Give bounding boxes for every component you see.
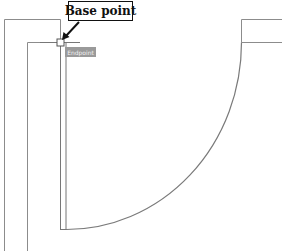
- door-panel[interactable]: [61, 43, 67, 230]
- callout-arrow: [62, 22, 79, 40]
- endpoint-osnap-tooltip: Endpoint: [65, 47, 96, 57]
- door-swing-arc[interactable]: [66, 43, 242, 230]
- base-point-callout: Base point: [68, 1, 133, 21]
- left-wall: [5, 20, 61, 251]
- right-wall: [242, 20, 283, 43]
- endpoint-snap-marker[interactable]: [57, 39, 64, 46]
- drawing-canvas[interactable]: [0, 0, 282, 251]
